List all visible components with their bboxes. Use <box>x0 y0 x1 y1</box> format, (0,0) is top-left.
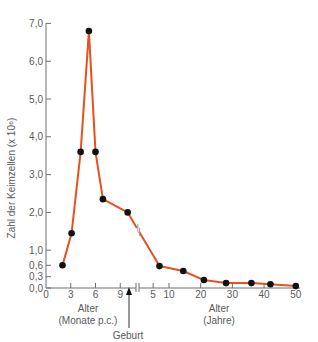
y-tick-label: 1,0 <box>29 245 43 256</box>
y-tick-label: 0,3 <box>29 271 43 282</box>
y-tick-label: 2,0 <box>29 207 43 218</box>
y-tick-label: 0,0 <box>29 283 43 294</box>
germ-cell-chart: 0,00,30,61,02,03,04,05,06,07,0 036951020… <box>0 0 318 342</box>
x-tick-label: 6 <box>93 289 99 300</box>
x-tick-label: 5 <box>150 289 156 300</box>
x-tick-label: 50 <box>290 289 302 300</box>
data-point <box>201 277 208 284</box>
x-tick-label: 9 <box>117 289 123 300</box>
x-tick-label: 10 <box>163 289 175 300</box>
data-point <box>100 196 107 203</box>
x-axis-title-months-line2: (Monate p.c.) <box>59 315 118 326</box>
data-point <box>180 268 187 275</box>
data-point <box>293 283 300 290</box>
x-tick-label: 40 <box>259 289 271 300</box>
x-tick-label: 30 <box>227 289 239 300</box>
data-point <box>92 149 99 156</box>
series-line <box>139 232 296 286</box>
x-axis-title-years-line2: (Jahre) <box>203 315 235 326</box>
data-point <box>124 209 131 216</box>
y-tick-label: 4,0 <box>29 131 43 142</box>
data-point <box>59 262 66 269</box>
x-axis: 036951020304050 <box>43 283 302 300</box>
data-point <box>267 281 274 288</box>
y-tick-label: 5,0 <box>29 94 43 105</box>
data-point <box>68 230 75 237</box>
y-tick-label: 0,6 <box>29 260 43 271</box>
x-tick-label: 3 <box>68 289 74 300</box>
data-point <box>86 28 93 35</box>
y-axis: 0,00,30,61,02,03,04,05,06,07,0 <box>29 18 51 294</box>
series-line <box>63 31 137 265</box>
x-tick-label: 20 <box>195 289 207 300</box>
y-tick-label: 3,0 <box>29 169 43 180</box>
data-point <box>156 263 163 270</box>
data-point <box>223 280 230 287</box>
y-tick-label: 7,0 <box>29 18 43 29</box>
y-axis-title: Zahl der Keimzellen (x 10⁶) <box>6 118 17 239</box>
data-point <box>248 280 255 287</box>
birth-label: Geburt <box>113 330 144 341</box>
x-axis-title-months-line1: Alter <box>78 303 99 314</box>
y-tick-label: 6,0 <box>29 56 43 67</box>
data-point <box>77 149 84 156</box>
x-axis-title-years-line1: Alter <box>209 303 230 314</box>
x-tick-label: 0 <box>43 289 49 300</box>
data-series <box>59 28 299 290</box>
